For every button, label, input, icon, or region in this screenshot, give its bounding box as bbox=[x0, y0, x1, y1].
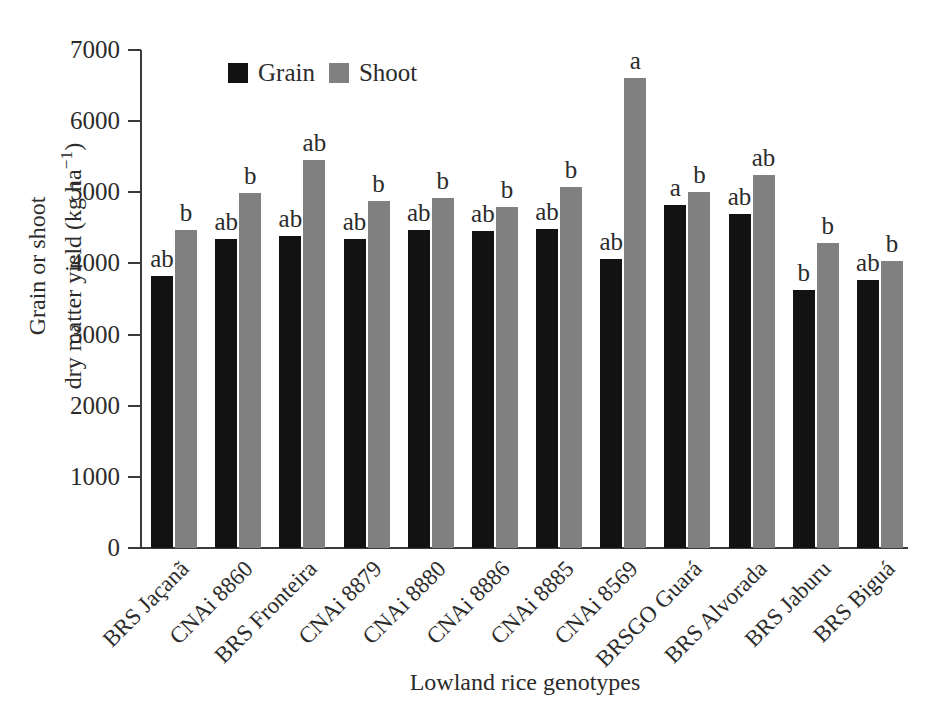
y-axis-title-exponent: −1 bbox=[57, 151, 76, 169]
y-axis-tick-label: 3000 bbox=[0, 322, 120, 347]
bar-group: abb bbox=[536, 50, 582, 548]
bar-shoot[interactable] bbox=[624, 78, 646, 548]
bar-grain[interactable] bbox=[729, 214, 751, 548]
y-axis-tick-label: 4000 bbox=[0, 250, 120, 275]
bar-group: ab bbox=[664, 50, 710, 548]
bar-significance-letter: b bbox=[808, 213, 848, 238]
bar-shoot[interactable] bbox=[881, 261, 903, 548]
bar-significance-letter: b bbox=[551, 157, 591, 182]
bar-shoot[interactable] bbox=[560, 187, 582, 548]
x-axis-title: Lowland rice genotypes bbox=[140, 668, 910, 696]
bar-group: bb bbox=[793, 50, 839, 548]
bar-grain[interactable] bbox=[215, 239, 237, 548]
bar-grain[interactable] bbox=[793, 290, 815, 548]
bar-shoot[interactable] bbox=[303, 160, 325, 548]
bar-significance-letter: ab bbox=[744, 145, 784, 170]
bar-grain[interactable] bbox=[536, 229, 558, 548]
y-axis-tick-label: 0 bbox=[0, 535, 120, 560]
bar-significance-letter: b bbox=[487, 177, 527, 202]
plot-area: abbabbabababbabbabbabbabaabababbbabb bbox=[140, 50, 910, 548]
bar-group: abb bbox=[408, 50, 454, 548]
bar-significance-letter: b bbox=[230, 163, 270, 188]
bar-significance-letter: b bbox=[872, 231, 912, 256]
bar-shoot[interactable] bbox=[753, 175, 775, 548]
bar-shoot[interactable] bbox=[432, 198, 454, 548]
legend-label: Shoot bbox=[359, 60, 417, 85]
bar-significance-letter: ab bbox=[294, 130, 334, 155]
bar-group: aba bbox=[600, 50, 646, 548]
bar-grain[interactable] bbox=[344, 239, 366, 548]
bar-shoot[interactable] bbox=[368, 201, 390, 548]
bar-shoot[interactable] bbox=[817, 243, 839, 548]
bar-grain[interactable] bbox=[279, 236, 301, 548]
bar-significance-letter: b bbox=[166, 200, 206, 225]
bar-shoot[interactable] bbox=[496, 207, 518, 548]
bar-significance-letter: b bbox=[423, 168, 463, 193]
bar-shoot[interactable] bbox=[239, 193, 261, 548]
legend-label: Grain bbox=[258, 60, 315, 85]
legend-entry[interactable]: Grain bbox=[228, 60, 315, 85]
bar-shoot[interactable] bbox=[175, 230, 197, 548]
legend: GrainShoot bbox=[228, 60, 417, 85]
bar-significance-letter: b bbox=[359, 171, 399, 196]
grain-swatch-icon bbox=[228, 63, 248, 83]
y-axis-tick-label: 5000 bbox=[0, 179, 120, 204]
bar-significance-letter: a bbox=[615, 48, 655, 73]
bar-group: abb bbox=[472, 50, 518, 548]
shoot-swatch-icon bbox=[329, 63, 349, 83]
bar-grain[interactable] bbox=[151, 276, 173, 548]
y-axis-title-line2-post: ) bbox=[60, 143, 86, 151]
legend-entry[interactable]: Shoot bbox=[329, 60, 417, 85]
bar-group: abb bbox=[857, 50, 903, 548]
bar-significance-letter: b bbox=[679, 162, 719, 187]
y-axis-tick-label: 1000 bbox=[0, 464, 120, 489]
bar-group: abab bbox=[279, 50, 325, 548]
bar-group: abb bbox=[151, 50, 197, 548]
y-axis-tick-label: 6000 bbox=[0, 108, 120, 133]
bar-group: abb bbox=[344, 50, 390, 548]
bar-group: abb bbox=[215, 50, 261, 548]
bar-group: abab bbox=[729, 50, 775, 548]
y-axis-tick-label: 7000 bbox=[0, 37, 120, 62]
bar-grain[interactable] bbox=[600, 259, 622, 548]
bar-grain[interactable] bbox=[664, 205, 686, 548]
bar-shoot[interactable] bbox=[688, 192, 710, 548]
bar-grain[interactable] bbox=[472, 231, 494, 548]
figure-root: Grain or shoot dry matter yield (kg ha−1… bbox=[0, 0, 930, 717]
bar-grain[interactable] bbox=[857, 280, 879, 548]
bar-grain[interactable] bbox=[408, 230, 430, 548]
y-axis-tick-label: 2000 bbox=[0, 393, 120, 418]
